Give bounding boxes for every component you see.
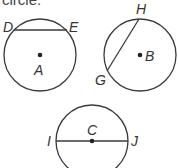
label-j: J <box>130 133 139 149</box>
circle-a-group: D E A <box>3 19 79 91</box>
label-i: I <box>47 133 51 149</box>
label-b: B <box>145 48 154 64</box>
label-d: D <box>3 19 13 35</box>
center-point-c <box>90 139 95 144</box>
center-point-a <box>38 53 43 58</box>
label-g: G <box>95 72 106 88</box>
label-c: C <box>87 122 98 138</box>
label-a: A <box>33 62 43 78</box>
label-h: H <box>136 1 147 17</box>
chord-gh <box>107 19 139 71</box>
circles-diagram: D E A H G B C I J <box>0 0 178 168</box>
circle-c-group: C I J <box>47 105 139 168</box>
label-e: E <box>69 19 79 35</box>
center-point-b <box>138 53 143 58</box>
circle-b-group: H G B <box>95 1 176 91</box>
